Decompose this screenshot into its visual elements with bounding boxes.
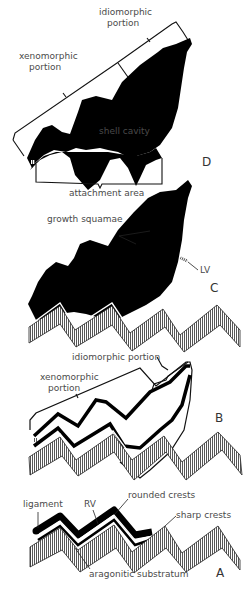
substratum-b bbox=[29, 432, 242, 480]
label-attachment-area: attachment area bbox=[69, 188, 144, 198]
brace-b-idiomorphic bbox=[152, 362, 188, 390]
substratum-c bbox=[29, 305, 240, 352]
label-rounded-crests: rounded crests bbox=[128, 490, 195, 500]
label-growth-squamae: growth squamae bbox=[47, 214, 123, 224]
label-idiomorphic: idiomorphic bbox=[99, 7, 152, 17]
label-lv: LV bbox=[200, 265, 211, 275]
stage-label-d: D bbox=[202, 155, 211, 169]
brace-tick-xeno bbox=[63, 93, 66, 97]
label-ligament: ligament bbox=[23, 499, 63, 509]
label-xenomorphic-portion: portion bbox=[29, 62, 61, 72]
stage-a: ligament RV rounded crests sharp crests … bbox=[23, 490, 240, 580]
lv-marker bbox=[180, 256, 189, 262]
ligament-b bbox=[33, 438, 37, 442]
label-b-xenomorphic: xenomorphic bbox=[40, 372, 99, 382]
ligament-a bbox=[33, 528, 40, 535]
stage-label-b: B bbox=[215, 411, 223, 425]
label-shell-cavity: shell cavity bbox=[99, 126, 151, 136]
label-rv: RV bbox=[84, 499, 97, 509]
brace-left-end bbox=[13, 140, 24, 156]
leader-sharp bbox=[165, 516, 176, 526]
label-sharp-crests: sharp crests bbox=[176, 510, 231, 520]
label-b-idiomorphic-portion: idiomorphic portion bbox=[72, 352, 160, 362]
ligament-d bbox=[31, 160, 35, 164]
stage-c: growth squamae LV C bbox=[28, 180, 240, 352]
stage-label-c: C bbox=[210, 281, 218, 295]
leader-lv bbox=[188, 262, 198, 270]
shell-c bbox=[28, 180, 192, 320]
oyster-attachment-diagram: idiomorphic portion xenomorphic portion … bbox=[0, 0, 252, 592]
label-b-xenomorphic-portion: portion bbox=[48, 383, 80, 393]
leader-rounded bbox=[115, 499, 128, 514]
label-aragonitic-substratum: aragonitic substratum bbox=[89, 569, 189, 579]
stage-d: idiomorphic portion xenomorphic portion … bbox=[13, 7, 211, 198]
stage-label-a: A bbox=[216, 566, 225, 580]
stage-b: idiomorphic portion xenomorphic portion … bbox=[29, 352, 242, 480]
label-idiomorphic-portion: portion bbox=[107, 18, 139, 28]
label-xenomorphic: xenomorphic bbox=[19, 51, 78, 61]
